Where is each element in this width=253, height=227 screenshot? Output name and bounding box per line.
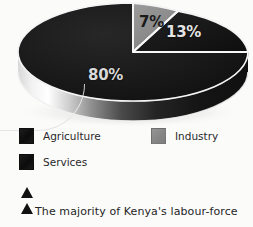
- legend-row: Agriculture Industry: [0, 128, 253, 153]
- legend-label-services: Services: [43, 157, 87, 168]
- legend-item-industry[interactable]: Industry: [151, 128, 218, 144]
- legend-swatch-services: [19, 154, 34, 170]
- legend-item-services[interactable]: Services: [19, 154, 87, 170]
- legend-label-agriculture: Agriculture: [43, 131, 101, 142]
- figure-caption: The majority of Kenya's labour-force: [0, 186, 253, 227]
- triangle-up-icon: [21, 203, 33, 214]
- legend-swatch-industry: [151, 128, 166, 144]
- legend-swatch-agriculture: [19, 128, 34, 144]
- pie-chart-figure: 80% 7% 13% Agriculture Industry Services: [0, 0, 253, 227]
- pie-chart-svg: [0, 0, 253, 128]
- chart-legend: Agriculture Industry Services: [0, 126, 253, 186]
- legend-row: Services: [0, 154, 253, 179]
- chart-area: 80% 7% 13%: [0, 0, 253, 128]
- caption-text: The majority of Kenya's labour-force: [35, 205, 238, 218]
- triangle-up-icon: [21, 187, 33, 198]
- legend-label-industry: Industry: [175, 131, 218, 142]
- legend-item-agriculture[interactable]: Agriculture: [19, 128, 101, 144]
